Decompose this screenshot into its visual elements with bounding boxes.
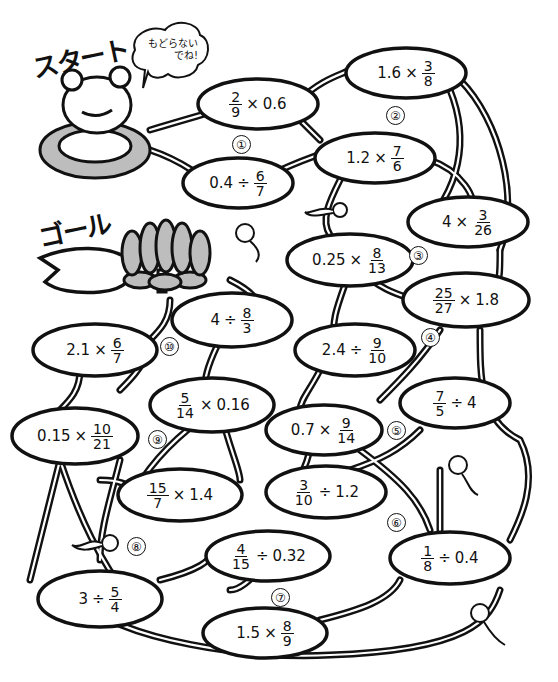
maze-worksheet: スタート ゴール もどらない でね! 29×0.6 0.4÷67 1.6×38 …: [0, 0, 558, 682]
pad-8b[interactable]: 157×1.4: [118, 475, 242, 515]
pad-5a[interactable]: 75÷4: [400, 383, 510, 423]
fraction: 29: [229, 90, 242, 119]
frog-start-icon: [40, 67, 150, 178]
pad-4b[interactable]: 2.4÷910: [295, 330, 415, 370]
lotus-flower-icon: [122, 220, 210, 292]
step-badge-3: ③: [409, 246, 428, 265]
pad-10b[interactable]: 4÷83: [172, 300, 292, 340]
step-badge-9: ⑨: [148, 430, 167, 449]
step-badge-1: ①: [232, 135, 251, 154]
step-badge-10: ⑩: [160, 337, 179, 356]
pad-5b[interactable]: 0.7×914: [266, 410, 382, 450]
pad-1a[interactable]: 29×0.6: [198, 84, 318, 124]
pad-1b[interactable]: 0.4÷67: [183, 163, 293, 203]
step-badge-8: ⑧: [127, 537, 146, 556]
pad-6a[interactable]: 310÷1.2: [266, 472, 386, 512]
step-badge-6: ⑥: [387, 513, 406, 532]
pad-9a[interactable]: 0.15×1021: [12, 416, 138, 456]
pad-4a[interactable]: 2527×1.8: [403, 280, 529, 320]
step-badge-4: ④: [421, 328, 440, 347]
pad-9b[interactable]: 514×0.16: [150, 385, 274, 425]
speech-bubble-text: もどらない でね!: [140, 38, 198, 62]
step-badge-2: ②: [386, 106, 405, 125]
step-badge-5: ⑤: [387, 421, 406, 440]
pad-7a[interactable]: 415÷0.32: [206, 536, 330, 576]
pad-8a[interactable]: 3÷54: [38, 579, 162, 619]
step-badge-7: ⑦: [271, 588, 290, 607]
tadpole-icon: [236, 224, 259, 262]
pad-2b[interactable]: 1.2×76: [315, 138, 435, 178]
pad-3a[interactable]: 4×326: [408, 202, 528, 242]
pad-2a[interactable]: 1.6×38: [346, 53, 466, 93]
pad-6b[interactable]: 18÷0.4: [390, 538, 510, 578]
pad-3b[interactable]: 0.25×813: [287, 240, 413, 280]
pad-10a[interactable]: 2.1×67: [33, 330, 157, 370]
tadpole-icon: [449, 456, 478, 495]
pad-7b[interactable]: 1.5×89: [203, 613, 327, 653]
